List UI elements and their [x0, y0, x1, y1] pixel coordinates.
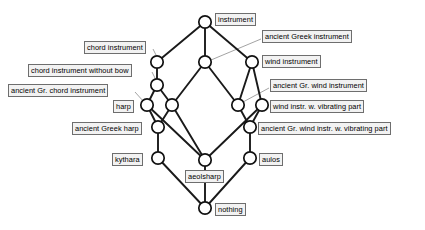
lbl-wind[interactable]: wind instrument — [262, 55, 321, 68]
lbl-kythara[interactable]: kythara — [112, 153, 143, 166]
lattice-node-windvib[interactable] — [256, 99, 268, 111]
lattice-edge — [205, 158, 250, 208]
lattice-node-agwindvib[interactable] — [244, 121, 256, 133]
lattice-node-chordnb[interactable] — [151, 79, 163, 91]
lattice-node-kythara[interactable] — [152, 152, 164, 164]
lattice-node-agwind[interactable] — [232, 99, 244, 111]
lbl-agwindvib[interactable]: ancient Gr. wind instr. w. vibrating par… — [258, 122, 391, 135]
concept-lattice-diagram: instrumentancient Greek instrumentchord … — [0, 0, 425, 230]
lattice-node-aeolsharp[interactable] — [199, 154, 211, 166]
lattice-node-aulos[interactable] — [244, 152, 256, 164]
lbl-agi[interactable]: ancient Greek instrument — [262, 30, 352, 43]
lbl-harp[interactable]: harp — [113, 100, 134, 113]
lbl-windvib[interactable]: wind instr. w. vibrating part — [270, 100, 364, 113]
lattice-node-bottom[interactable] — [199, 202, 211, 214]
lbl-chordnb[interactable]: chord instrument without bow — [28, 64, 132, 77]
lbl-agwind[interactable]: ancient Gr. wind instrument — [270, 79, 367, 92]
lbl-nothing[interactable]: nothing — [215, 203, 246, 216]
lattice-node-chord[interactable] — [151, 56, 163, 68]
lbl-agharp[interactable]: ancient Greek harp — [72, 122, 142, 135]
lattice-node-harpmid[interactable] — [166, 99, 178, 111]
lattice-graphics — [0, 0, 425, 230]
lbl-chord[interactable]: chord instrument — [84, 41, 146, 54]
lattice-edge — [157, 22, 205, 62]
lattice-node-wind[interactable] — [246, 56, 258, 68]
lattice-node-agharp[interactable] — [152, 121, 164, 133]
lattice-node-agi[interactable] — [199, 56, 211, 68]
lattice-edge — [172, 62, 205, 105]
lattice-node-agchord[interactable] — [141, 99, 153, 111]
lattice-edge — [205, 22, 252, 62]
lattice-edge — [158, 158, 205, 208]
lbl-instrument[interactable]: instrument — [215, 13, 256, 26]
lbl-aeolsharp[interactable]: aeolsharp — [185, 170, 224, 183]
lattice-node-top[interactable] — [199, 16, 211, 28]
lattice-edge — [205, 62, 238, 105]
lbl-agchord[interactable]: ancient Gr. chord instrument — [8, 84, 108, 97]
lbl-aulos[interactable]: aulos — [259, 153, 283, 166]
